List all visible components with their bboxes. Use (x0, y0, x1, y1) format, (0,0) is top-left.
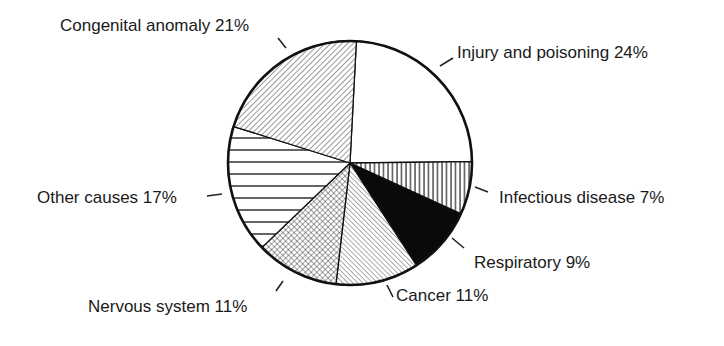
leader-respiratory (452, 238, 464, 248)
label-congenital: Congenital anomaly 21% (60, 16, 249, 35)
leader-nervous (276, 281, 283, 291)
label-other: Other causes 17% (37, 188, 177, 207)
leader-congenital (278, 38, 286, 48)
leader-cancer (387, 285, 393, 297)
leader-other (207, 194, 222, 196)
label-nervous: Nervous system 11% (88, 297, 247, 316)
slice-injury-and-poisoning (350, 41, 472, 163)
label-cancer: Cancer 11% (396, 286, 488, 305)
label-respiratory: Respiratory 9% (474, 253, 590, 272)
pie-chart: Congenital anomaly 21% Injury and poison… (0, 0, 724, 346)
label-injury: Injury and poisoning 24% (457, 43, 648, 62)
leader-injury (440, 58, 453, 66)
label-infectious: Infectious disease 7% (499, 188, 664, 207)
leader-infectious (475, 187, 488, 192)
